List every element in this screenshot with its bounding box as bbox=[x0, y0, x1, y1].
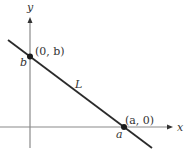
x-intercept-label: (a, 0) bbox=[125, 114, 154, 127]
y-axis-arrow-icon bbox=[28, 17, 33, 23]
y-intercept-label: (0, b) bbox=[35, 45, 65, 58]
y-axis-label: y bbox=[26, 1, 34, 14]
y-intercept-point bbox=[27, 54, 33, 60]
line-intercepts-diagram: y x L (0, b) b (a, 0) a bbox=[0, 0, 188, 155]
x-axis-label: x bbox=[177, 121, 184, 134]
x-axis-arrow-icon bbox=[167, 125, 173, 130]
line-label: L bbox=[74, 78, 82, 91]
diagram-canvas: y x L (0, b) b (a, 0) a bbox=[0, 0, 188, 155]
y-intercept-tick-label: b bbox=[20, 56, 27, 69]
x-intercept-tick-label: a bbox=[116, 128, 123, 141]
